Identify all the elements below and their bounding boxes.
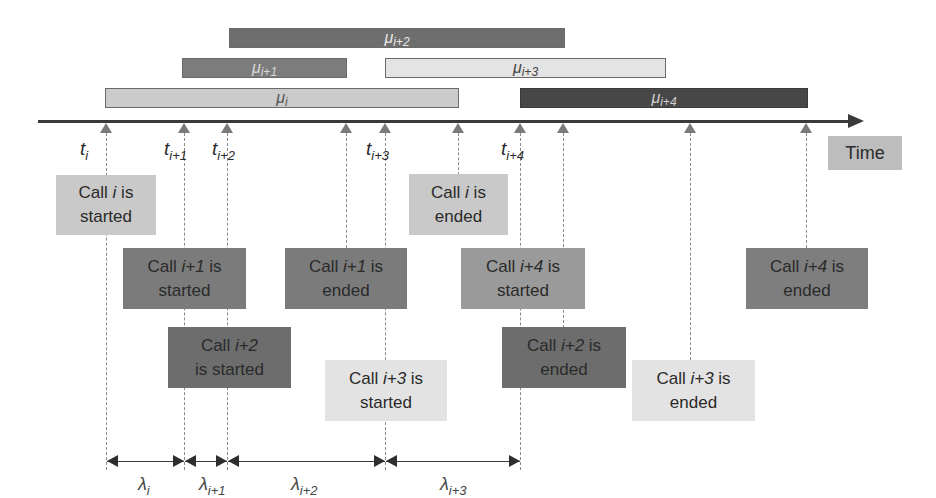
tick-arrow-icon bbox=[340, 123, 352, 133]
event-text: is bbox=[543, 257, 560, 276]
event-text: ended bbox=[322, 281, 369, 300]
event-text: Call bbox=[431, 183, 465, 202]
arrowhead-left-icon bbox=[386, 455, 397, 467]
t-subscript: i+3 bbox=[371, 148, 389, 163]
arrowhead-left-icon bbox=[228, 455, 239, 467]
mu-subscript: i+1 bbox=[261, 65, 277, 79]
tick-arrow-icon bbox=[221, 123, 233, 133]
event-index: i+2 bbox=[561, 336, 584, 355]
event-text: Call bbox=[656, 369, 690, 388]
mu-symbol: μ bbox=[384, 29, 393, 47]
event-text: is bbox=[469, 183, 486, 202]
guide-line bbox=[346, 133, 347, 248]
guide-line bbox=[690, 133, 691, 365]
event-text: started bbox=[360, 393, 412, 412]
event-text: Call bbox=[770, 257, 804, 276]
interarrival-label-i: λi bbox=[138, 474, 150, 495]
event-text: is bbox=[366, 257, 383, 276]
tick-arrow-icon bbox=[452, 123, 464, 133]
arrowhead-right-icon bbox=[216, 455, 227, 467]
event-index: i+4 bbox=[520, 257, 543, 276]
event-call-i2-started: Call i+2is started bbox=[168, 327, 291, 388]
time-axis-label: Time bbox=[828, 136, 902, 170]
event-text: ended bbox=[540, 360, 587, 379]
interarrival-label-i3: λi+3 bbox=[440, 474, 467, 495]
event-text: Call bbox=[527, 336, 561, 355]
event-call-i1-started: Call i+1 isstarted bbox=[123, 248, 246, 309]
interarrival-label-i2: λi+2 bbox=[291, 474, 318, 495]
mu-subscript: i bbox=[285, 95, 288, 109]
event-text: started bbox=[497, 281, 549, 300]
arrival-label-ti2: ti+2 bbox=[212, 138, 235, 160]
time-label-text: Time bbox=[845, 141, 884, 165]
arrowhead-right-icon bbox=[173, 455, 184, 467]
lambda-symbol: λ bbox=[138, 474, 147, 494]
interarrival-label-i1: λi+1 bbox=[199, 474, 226, 495]
lambda-subscript: i+1 bbox=[208, 483, 226, 498]
event-index: i+4 bbox=[804, 257, 827, 276]
event-index: i+3 bbox=[383, 369, 406, 388]
mu-subscript: i+3 bbox=[522, 65, 538, 79]
event-text: is started bbox=[195, 360, 264, 379]
tick-arrow-icon bbox=[514, 123, 526, 133]
interarrival-arrow-i3 bbox=[386, 461, 520, 462]
arrowhead-left-icon bbox=[185, 455, 196, 467]
service-bar-i3: μi+3 bbox=[385, 58, 666, 78]
arrowhead-right-icon bbox=[374, 455, 385, 467]
interarrival-arrow-i2 bbox=[228, 461, 385, 462]
time-axis-arrowhead-icon bbox=[848, 114, 864, 128]
t-subscript: i bbox=[85, 148, 88, 163]
arrival-label-ti1: ti+1 bbox=[164, 138, 187, 160]
service-bar-i1: μi+1 bbox=[182, 58, 347, 78]
tick-arrow-icon bbox=[557, 123, 569, 133]
event-text: ended bbox=[783, 281, 830, 300]
event-text: started bbox=[159, 281, 211, 300]
lambda-subscript: i bbox=[147, 483, 150, 498]
event-text: Call bbox=[79, 183, 113, 202]
event-call-i3-ended: Call i+3 isended bbox=[632, 360, 755, 421]
event-call-i3-started: Call i+3 isstarted bbox=[325, 360, 447, 421]
event-text: is bbox=[205, 257, 222, 276]
time-axis bbox=[38, 120, 850, 123]
tick-arrow-icon bbox=[379, 123, 391, 133]
event-index: i+1 bbox=[181, 257, 204, 276]
tick-arrow-icon bbox=[800, 123, 812, 133]
service-bar-i: μi bbox=[105, 88, 459, 108]
event-text: Call bbox=[201, 336, 235, 355]
mu-subscript: i+2 bbox=[393, 35, 409, 49]
event-text: is bbox=[116, 183, 133, 202]
event-index: i+3 bbox=[690, 369, 713, 388]
event-text: Call bbox=[309, 257, 343, 276]
lambda-symbol: λ bbox=[440, 474, 449, 494]
event-call-i1-ended: Call i+1 isended bbox=[285, 248, 407, 309]
event-text: is bbox=[714, 369, 731, 388]
tick-arrow-icon bbox=[684, 123, 696, 133]
lambda-symbol: λ bbox=[291, 474, 300, 494]
event-text: is bbox=[827, 257, 844, 276]
guide-line bbox=[806, 133, 807, 248]
event-text: Call bbox=[486, 257, 520, 276]
t-subscript: i+2 bbox=[217, 148, 235, 163]
lambda-symbol: λ bbox=[199, 474, 208, 494]
mu-subscript: i+4 bbox=[660, 95, 676, 109]
event-text: is bbox=[406, 369, 423, 388]
event-text: ended bbox=[435, 207, 482, 226]
event-text: Call bbox=[147, 257, 181, 276]
tick-arrow-icon bbox=[178, 123, 190, 133]
arrival-label-ti: ti bbox=[80, 138, 88, 160]
event-text: is bbox=[584, 336, 601, 355]
lambda-subscript: i+2 bbox=[300, 483, 318, 498]
event-text: Call bbox=[349, 369, 383, 388]
mu-symbol: μ bbox=[513, 59, 522, 77]
event-call-i-started: Call i isstarted bbox=[56, 175, 156, 235]
tick-arrow-icon bbox=[100, 123, 112, 133]
arrival-label-ti3: ti+3 bbox=[366, 138, 389, 160]
event-call-i2-ended: Call i+2 isended bbox=[502, 327, 626, 388]
event-text: started bbox=[80, 207, 132, 226]
mu-symbol: μ bbox=[651, 89, 660, 107]
event-index: i+1 bbox=[343, 257, 366, 276]
service-bar-i4: μi+4 bbox=[520, 88, 808, 108]
mu-symbol: μ bbox=[276, 89, 285, 107]
service-bar-i2: μi+2 bbox=[229, 28, 565, 48]
t-subscript: i+4 bbox=[506, 148, 524, 163]
